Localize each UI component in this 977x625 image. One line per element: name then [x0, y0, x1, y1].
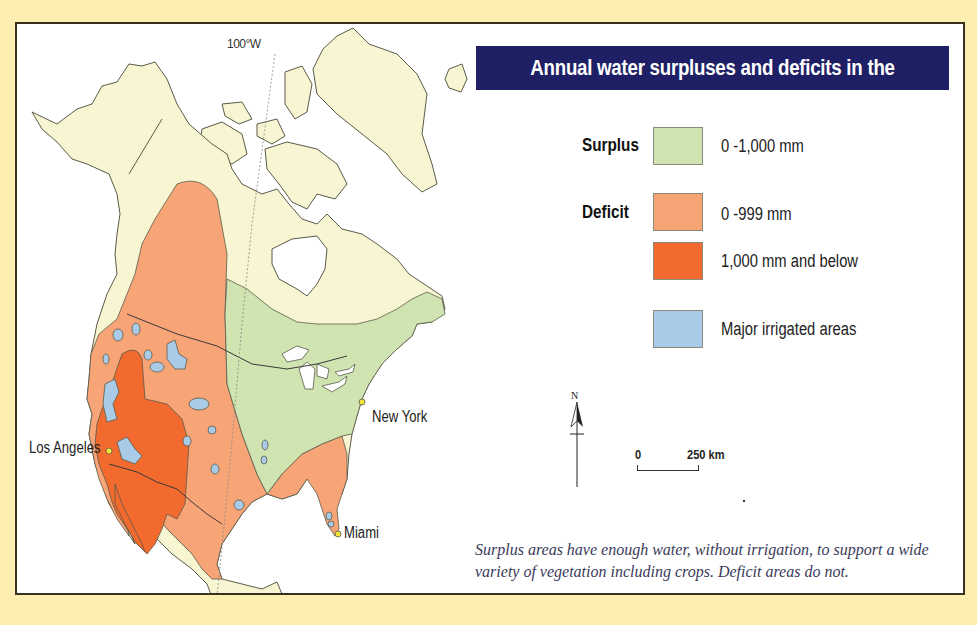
legend-text-deficit-light: 0 -999 mm [721, 204, 792, 225]
map-title-text: Annual water surpluses and deficits in t… [511, 46, 913, 134]
speck-mark [743, 500, 745, 502]
scale-start-label: 0 [635, 447, 641, 462]
miami-dot [335, 531, 341, 537]
new-york-dot [359, 399, 365, 405]
north-arrow-icon: N [567, 389, 587, 489]
iceland-landmass [445, 64, 467, 92]
legend-text-surplus: 0 -1,000 mm [721, 136, 804, 157]
legend-surplus-label: Surplus [582, 135, 639, 156]
north-arrow: N [567, 389, 587, 493]
city-label-los-angeles: Los Angeles [29, 439, 100, 457]
map-caption: Surplus areas have enough water, without… [475, 539, 945, 583]
scale-end-label: 250 km [687, 447, 724, 462]
map-title: Annual water surpluses and deficits in t… [476, 46, 949, 90]
legend-swatch-deficit-dark [653, 242, 703, 280]
scale-bar [637, 465, 699, 471]
meridian-label: 100°W [227, 37, 261, 51]
legend-text-deficit-dark: 1,000 mm and below [721, 251, 858, 272]
legend-deficit-label: Deficit [582, 202, 629, 223]
legend-swatch-irrigated [653, 310, 703, 348]
page-top-strip [0, 0, 977, 20]
city-label-new-york: New York [372, 408, 427, 426]
map-figure: 100°W Los Angeles New York Miami Annual … [15, 22, 965, 595]
city-label-miami: Miami [344, 524, 379, 542]
svg-text:N: N [571, 390, 578, 401]
legend-swatch-deficit-light [653, 193, 703, 231]
los-angeles-dot [106, 448, 112, 454]
legend-swatch-surplus [653, 127, 703, 165]
legend-text-irrigated: Major irrigated areas [721, 319, 856, 340]
